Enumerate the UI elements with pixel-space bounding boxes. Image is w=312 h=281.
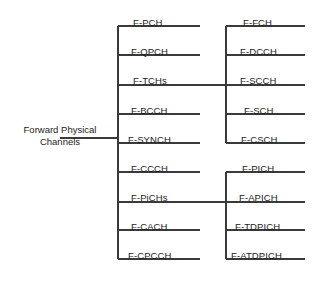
node-label-f-cpcch: F-CPCCH	[128, 250, 171, 261]
root-label-line2: Channels	[2, 136, 118, 148]
node-label-f-cach: F-CACH	[131, 221, 168, 232]
node-label-f-dcch: F-DCCH	[240, 46, 277, 57]
node-label-f-bcch: F-BCCH	[131, 105, 168, 116]
node-label-f-pch: F-PCH	[133, 17, 163, 28]
node-label-f-pichs: F-PiCHs	[131, 192, 168, 203]
node-label-f-atdpich: F-ATDPICH	[231, 250, 282, 261]
node-label-f-apich: F-APICH	[239, 192, 278, 203]
node-label-f-ccch: F-CCCH	[131, 163, 168, 174]
node-label-f-pich: F-PICH	[242, 163, 274, 174]
node-label-f-sch: F-SCH	[244, 105, 274, 116]
node-label-f-scch: F-SCCH	[240, 75, 277, 86]
root-label-line1: Forward Physical	[2, 124, 118, 136]
node-label-f-csch: F-CSCH	[241, 134, 278, 145]
node-label-f-synch: F-SYNCH	[128, 134, 171, 145]
node-label-f-qpch: F-QPCH	[131, 46, 168, 57]
node-label-f-tdpich: F-TDPICH	[235, 221, 280, 232]
node-label-f-fch: F-FCH	[243, 17, 272, 28]
node-label-f-tchs: F-TCHs	[133, 75, 167, 86]
root-node-label: Forward Physical Channels	[2, 124, 118, 148]
forward-physical-channels-diagram: Forward Physical Channels F-PCHF-QPCHF-T…	[0, 0, 312, 281]
